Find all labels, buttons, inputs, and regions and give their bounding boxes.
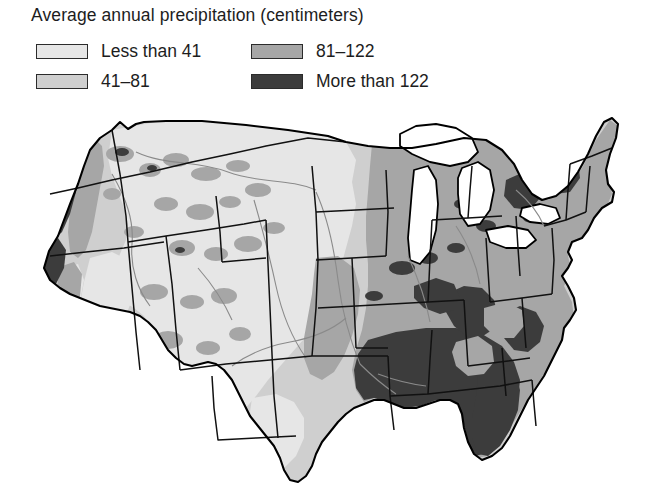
legend-row: Less than 41 81–122 (36, 36, 466, 66)
legend-label-more-than-122: More than 122 (316, 71, 429, 92)
band-more-than-122-wa-coast (58, 124, 88, 160)
united-states-precipitation-map (16, 108, 638, 490)
band-81-122-socal (42, 348, 70, 384)
swatch-more-than-122 (251, 74, 303, 89)
swatch-81-122 (251, 44, 303, 59)
legend-item-more-than-122: More than 122 (251, 71, 466, 92)
legend-label-81-122: 81–122 (316, 41, 374, 62)
legend: Less than 41 81–122 41–81 More than 122 (36, 36, 466, 96)
legend-item-less-than-41: Less than 41 (36, 41, 251, 62)
legend-label-less-than-41: Less than 41 (101, 41, 201, 62)
usmap-svg (16, 108, 638, 490)
legend-item-41-81: 41–81 (36, 71, 251, 92)
swatch-41-81 (36, 74, 88, 89)
legend-row: 41–81 More than 122 (36, 66, 466, 96)
band-more-than-122-sierra-crest (44, 298, 76, 358)
swatch-less-than-41 (36, 44, 88, 59)
legend-label-41-81: 41–81 (101, 71, 150, 92)
legend-item-81-122: 81–122 (251, 41, 466, 62)
legend-title: Average annual precipitation (centimeter… (31, 5, 364, 26)
precipitation-bands (16, 108, 638, 490)
precipitation-map-figure: Average annual precipitation (centimeter… (0, 0, 654, 493)
